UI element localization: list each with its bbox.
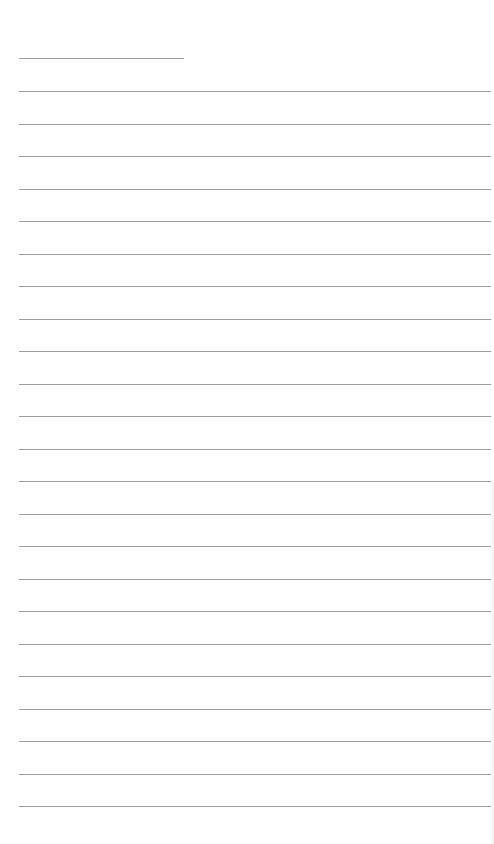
ruled-line	[19, 351, 491, 352]
ruled-line	[19, 449, 491, 450]
ruled-line	[19, 774, 491, 775]
page-edge-shadow	[490, 480, 494, 844]
ruled-line	[19, 254, 491, 255]
ruled-line	[19, 221, 491, 222]
header-line	[19, 58, 184, 59]
ruled-line	[19, 124, 491, 125]
ruled-line	[19, 546, 491, 547]
ruled-line	[19, 319, 491, 320]
ruled-line	[19, 481, 491, 482]
ruled-line	[19, 416, 491, 417]
ruled-line	[19, 676, 491, 677]
ruled-line	[19, 514, 491, 515]
ruled-line	[19, 579, 491, 580]
ruled-line	[19, 156, 491, 157]
ruled-line	[19, 91, 491, 92]
ruled-line	[19, 189, 491, 190]
ruled-line	[19, 611, 491, 612]
ruled-line	[19, 709, 491, 710]
ruled-line	[19, 644, 491, 645]
ruled-line	[19, 806, 491, 807]
lined-paper-page	[0, 0, 494, 844]
ruled-line	[19, 741, 491, 742]
ruled-line	[19, 286, 491, 287]
ruled-line	[19, 384, 491, 385]
